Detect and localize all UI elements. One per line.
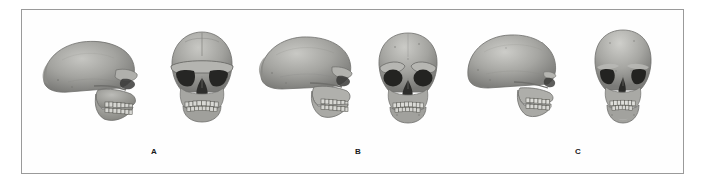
skull-b-frontal: [371, 29, 445, 127]
skull-b-lateral: [256, 29, 356, 126]
skull-row: A B C: [0, 0, 704, 184]
skull-a-frontal-drawing: [163, 26, 241, 126]
figure-canvas: A B C: [0, 0, 704, 184]
skull-a-frontal: [163, 26, 241, 126]
group-label-b: B: [355, 148, 361, 156]
skull-c-lateral: [462, 30, 562, 128]
skull-c-lateral-drawing: [462, 30, 562, 128]
group-label-c: C: [575, 148, 581, 156]
group-label-a: A: [151, 148, 157, 156]
skull-c-frontal: [587, 27, 659, 127]
skull-b-lateral-drawing: [256, 29, 356, 126]
skull-a-lateral-drawing: [38, 30, 142, 126]
skull-b-frontal-drawing: [371, 29, 445, 127]
skull-c-frontal-drawing: [587, 27, 659, 127]
skull-a-lateral: [38, 30, 142, 126]
